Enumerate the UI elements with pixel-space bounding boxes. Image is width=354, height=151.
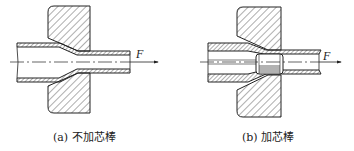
force-label-b: F xyxy=(323,49,330,64)
panel-b xyxy=(200,7,341,117)
caption-b: (b) 加芯棒 xyxy=(242,128,294,144)
mandrel-plug-b xyxy=(256,54,283,74)
force-label-a: F xyxy=(136,47,143,62)
tube-break-line-a xyxy=(17,47,18,78)
caption-a: (a) 不加芯棒 xyxy=(53,128,116,144)
